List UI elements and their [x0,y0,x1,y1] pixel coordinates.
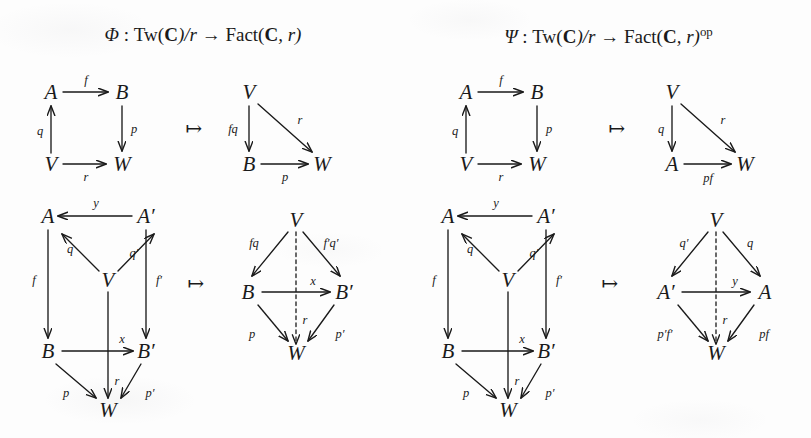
psi-top-source-object-w: W [528,154,546,175]
phi-target-rest: , r) [278,24,301,45]
psi-top-target-label-q: q [658,123,664,136]
psi-bot-target-object-a: A [759,282,772,303]
phi-bot-source-label-fp: f′ [156,274,162,287]
phi-top-target-label-fq: fq [228,123,238,136]
phi-bot-target-label-pp: p′ [336,328,345,341]
psi-bot-source-object-bp: B′ [537,341,554,362]
psi-bot-source-label-fp: f′ [556,274,562,287]
psi-top-source-label-p: p [546,123,552,136]
phi-arrow: → [197,24,226,45]
phi-bot-source-object-a: A [42,206,55,227]
psi-bot-source-label-pp: p′ [546,387,555,400]
psi-bot-source-object-w: W [499,400,517,421]
phi-top-target-object-b: B [243,154,256,175]
phi-top-target-object-v: V [243,82,256,103]
psi-colon: : [518,26,533,47]
psi-bot-source-label-y: y [493,197,499,210]
psi-symbol: Ψ [504,26,517,47]
psi-top-source-object-a: A [460,82,473,103]
phi-bot-target-label-r: r [303,314,308,327]
phi-bot-source-label-qp: q′ [130,247,139,260]
psi-bot-source-label-p: p [463,387,469,400]
phi-top-source-label-r: r [84,171,89,184]
psi-bot-target-label-y: y [732,275,738,288]
psi-top-source-object-b: B [531,82,544,103]
psi-top-target-label-r: r [721,114,726,127]
psi-bot-target-label-pf: pf [759,328,769,341]
mapsto-phi-top: ↦ [186,118,203,138]
phi-colon: : [119,24,134,45]
psi-top-target-object-v: V [666,82,679,103]
phi-symbol: Φ [105,24,119,45]
phi-bot-source-object-w: W [99,400,117,421]
psi-bot-target-label-qp: q′ [680,237,689,250]
psi-bot-target-label-r: r [723,314,728,327]
psi-bot-source-label-r: r [515,375,520,388]
phi-source-open: Tw( [134,24,164,45]
phi-header: Φ : Tw(C)/r → Fact(C, r) [0,24,406,46]
phi-bot-target-object-w: W [287,343,305,364]
phi-bot-source-label-f: f [32,274,35,287]
psi-op-superscript: op [700,24,713,39]
phi-source-rest: )/r [178,24,197,45]
psi-bot-target-object-ap: A′ [657,282,674,303]
phi-bot-source-label-y: y [93,197,99,210]
psi-source-rest: )/r [576,26,595,47]
phi-source-category: C [164,24,178,45]
phi-bot-source-label-q: q [67,243,73,256]
phi-bot-source-object-b: B [42,341,55,362]
psi-header: Ψ : Tw(C)/r → Fact(C, r)op [406,24,811,48]
psi-top-target-object-w: W [736,154,754,175]
psi-bot-source-label-q: q [467,243,473,256]
psi-top-source-object-v: V [460,154,473,175]
phi-bot-target-object-v: V [290,210,303,231]
phi-bot-source-object-bp: B′ [137,341,154,362]
psi-bot-target-object-v: V [710,210,723,231]
phi-bot-source-label-pp: p′ [146,387,155,400]
phi-bot-source-object-ap: A′ [137,206,154,227]
psi-top-target-label-pf: pf [703,172,713,185]
psi-bot-source-label-f: f [432,274,435,287]
phi-top-source-object-w: W [113,154,131,175]
phi-top-source-object-b: B [116,82,129,103]
phi-bot-target-object-b: B [242,282,255,303]
psi-bot-source-label-qp: q′ [530,247,539,260]
phi-top-source-label-f: f [84,74,87,87]
psi-bot-target-object-w: W [707,343,725,364]
psi-top-source-label-q: q [452,125,458,138]
phi-top-source-label-q: q [37,125,43,138]
psi-source-category: C [563,26,577,47]
psi-bot-source-object-v: V [502,270,515,291]
psi-bot-source-label-x: x [519,333,525,346]
psi-bot-source-object-a: A [442,206,455,227]
mapsto-phi-bottom: ↦ [188,273,205,293]
phi-bot-target-object-bp: B′ [335,282,352,303]
psi-top-source-label-f: f [499,74,502,87]
figure-page: Φ : Tw(C)/r → Fact(C, r) Ψ : Tw(C)/r → F… [0,0,811,438]
phi-bot-source-label-p: p [63,387,69,400]
mapsto-psi-bottom: ↦ [602,273,619,293]
phi-bot-target-label-fpqp: f′q′ [323,237,338,250]
phi-bot-target-label-p: p [249,328,255,341]
phi-target-category: C [264,24,278,45]
phi-top-target-object-w: W [313,154,331,175]
mapsto-psi-top: ↦ [609,118,626,138]
psi-source-open: Tw( [532,26,562,47]
phi-top-source-object-v: V [45,154,58,175]
psi-target-rest: , r) [677,26,700,47]
phi-top-target-label-p: p [282,171,288,184]
diagram-arrows [0,0,811,438]
phi-target-open: Fact( [225,24,264,45]
psi-bot-target-label-ppfp: p′f′ [657,328,672,341]
phi-top-source-object-a: A [45,82,58,103]
psi-arrow: → [595,26,624,47]
phi-bot-target-label-x: x [310,275,316,288]
phi-top-target-label-r: r [298,114,303,127]
psi-top-source-label-r: r [499,171,504,184]
phi-bot-source-label-x: x [119,333,125,346]
phi-top-source-label-p: p [131,123,137,136]
psi-target-open: Fact( [624,26,663,47]
psi-bot-source-object-ap: A′ [537,206,554,227]
phi-bot-target-label-fq: fq [249,237,259,250]
psi-top-target-object-a: A [666,154,679,175]
